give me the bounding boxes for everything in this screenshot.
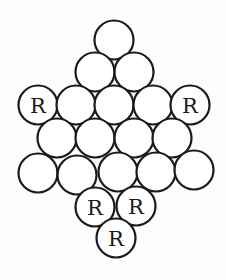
circle-shape <box>99 153 138 192</box>
circle-shape <box>76 119 115 158</box>
circle <box>99 153 138 192</box>
circle <box>76 119 115 158</box>
circle <box>175 151 214 190</box>
circle-shape <box>38 119 77 158</box>
circle-label: R <box>87 196 104 220</box>
circle <box>137 153 176 192</box>
circle-label: R <box>30 94 47 118</box>
circle-label: R <box>128 195 145 219</box>
circle-label: R <box>182 94 199 118</box>
circle-r-marked: R <box>97 219 136 258</box>
circle-shape <box>19 154 58 193</box>
circle-packing-svg: RRRRR <box>0 0 226 280</box>
circle-packing-diagram: RRRRR <box>0 0 226 280</box>
circle-shape <box>137 153 176 192</box>
circle <box>19 154 58 193</box>
circle-label: R <box>108 227 125 251</box>
circle-shape <box>175 151 214 190</box>
circle <box>38 119 77 158</box>
